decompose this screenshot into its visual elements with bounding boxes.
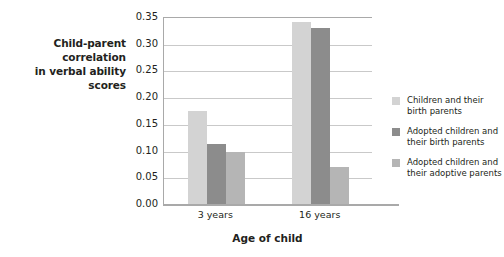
legend-label-line1: Adopted children and <box>407 126 504 137</box>
bar <box>226 152 245 204</box>
x-axis-category-label: 3 years <box>163 209 268 220</box>
y-axis-tick-label: 0.35 <box>126 12 158 22</box>
legend-label-line1: Children and their <box>407 95 504 106</box>
bar <box>311 28 330 204</box>
legend-label-line2: birth parents <box>407 106 504 117</box>
bar <box>330 167 349 204</box>
legend-label-line2: their adoptive parents <box>407 168 504 179</box>
y-axis-tick-label: 0.30 <box>126 39 158 49</box>
bar <box>292 22 311 204</box>
y-axis-tick-label: 0.00 <box>126 199 158 209</box>
y-axis-tick-label: 0.05 <box>126 172 158 182</box>
bar-group <box>292 17 349 204</box>
bar-group <box>188 17 245 204</box>
bars-layer <box>164 17 372 204</box>
legend-swatch-icon <box>392 97 400 105</box>
legend-label-line1: Adopted children and <box>407 157 504 168</box>
y-axis-title: Child-parent correlation in verbal abili… <box>2 36 126 92</box>
y-axis-tick-label: 0.10 <box>126 146 158 156</box>
y-axis-tick-label: 0.20 <box>126 92 158 102</box>
bar <box>188 111 207 205</box>
y-axis-tick-label: 0.15 <box>126 119 158 129</box>
legend: Children and theirbirth parentsAdopted c… <box>392 95 504 188</box>
legend-item: Adopted children andtheir birth parents <box>392 126 504 148</box>
y-axis-title-line1: Child-parent correlation <box>54 37 126 63</box>
x-axis-line <box>163 204 399 206</box>
y-axis-tick-label: 0.25 <box>126 65 158 75</box>
legend-swatch-icon <box>392 128 400 136</box>
legend-item: Adopted children andtheir adoptive paren… <box>392 157 504 179</box>
bar <box>207 144 226 204</box>
y-axis-tick-labels: 0.350.300.250.200.150.100.050.00 <box>122 0 158 257</box>
legend-swatch-icon <box>392 159 400 167</box>
y-axis-title-line2: in verbal ability scores <box>2 64 126 92</box>
legend-label-line2: their birth parents <box>407 137 504 148</box>
x-axis-category-label: 16 years <box>268 209 373 220</box>
legend-item: Children and theirbirth parents <box>392 95 504 117</box>
x-axis-title: Age of child <box>163 232 372 244</box>
bar-chart: Child-parent correlation in verbal abili… <box>0 0 504 257</box>
